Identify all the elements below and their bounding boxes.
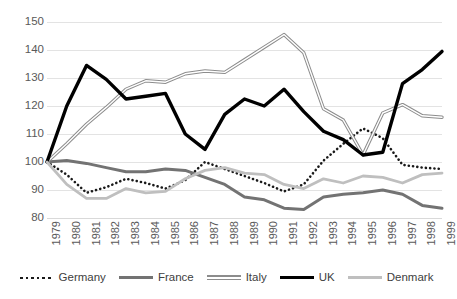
x-axis: 1979198019811982198319841985198619871988… [47, 221, 442, 267]
chart-legend: GermanyFranceItalyUKDenmark [0, 272, 453, 284]
x-tick-label-1983: 1983 [130, 221, 141, 245]
y-tick-label-130: 130 [4, 72, 44, 84]
legend-item-italy[interactable]: Italy [207, 272, 267, 284]
legend-item-uk[interactable]: UK [280, 272, 335, 284]
x-tick-label-1981: 1981 [91, 221, 102, 245]
y-tick-label-150: 150 [4, 16, 44, 28]
legend-label-uk: UK [319, 272, 335, 284]
x-tick-label-1991: 1991 [288, 221, 299, 245]
series-line-france [47, 161, 442, 210]
legend-label-italy: Italy [246, 272, 267, 284]
x-tick-label-1980: 1980 [71, 221, 82, 245]
legend-swatch-france-icon [119, 273, 153, 283]
y-axis: 8090100110120130140150 [0, 0, 44, 299]
legend-swatch-uk-icon [280, 273, 314, 283]
series-lines [47, 22, 442, 218]
x-tick-label-1990: 1990 [268, 221, 279, 245]
x-tick-label-1985: 1985 [170, 221, 181, 245]
x-tick-label-1993: 1993 [328, 221, 339, 245]
x-tick-label-1987: 1987 [209, 221, 220, 245]
x-tick-label-1989: 1989 [249, 221, 260, 245]
legend-item-france[interactable]: France [119, 272, 194, 284]
legend-label-germany: Germany [59, 272, 106, 284]
x-axis-line [47, 218, 442, 219]
plot-area [47, 22, 442, 218]
series-line-germany [47, 128, 442, 192]
x-tick-label-1984: 1984 [150, 221, 161, 245]
y-tick-label-90: 90 [4, 184, 44, 196]
x-tick-label-1996: 1996 [387, 221, 398, 245]
legend-swatch-denmark-icon [348, 273, 382, 283]
x-tick-label-1997: 1997 [407, 221, 418, 245]
x-tick-label-1992: 1992 [308, 221, 319, 245]
legend-item-germany[interactable]: Germany [20, 272, 106, 284]
legend-item-denmark[interactable]: Denmark [348, 272, 434, 284]
x-tick-label-1988: 1988 [229, 221, 240, 245]
legend-swatch-italy-icon [207, 273, 241, 283]
y-tick-label-110: 110 [4, 128, 44, 140]
y-tick-label-80: 80 [4, 212, 44, 224]
x-tick-label-1979: 1979 [51, 221, 62, 245]
legend-label-france: France [158, 272, 194, 284]
x-tick-label-1994: 1994 [347, 221, 358, 245]
y-tick-label-140: 140 [4, 44, 44, 56]
x-tick-label-1982: 1982 [110, 221, 121, 245]
legend-swatch-germany-icon [20, 273, 54, 283]
y-tick-label-100: 100 [4, 156, 44, 168]
y-tick-label-120: 120 [4, 100, 44, 112]
x-tick-label-1998: 1998 [426, 221, 437, 245]
x-tick-label-1986: 1986 [189, 221, 200, 245]
x-tick-label-1999: 1999 [446, 221, 457, 245]
legend-label-denmark: Denmark [387, 272, 434, 284]
x-tick-label-1995: 1995 [367, 221, 378, 245]
